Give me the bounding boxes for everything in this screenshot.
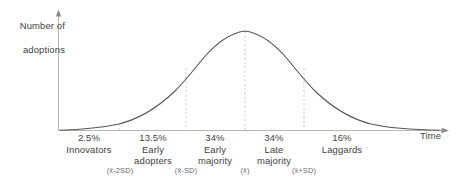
sd-mark-mean: (x̄): [228, 166, 262, 175]
diffusion-of-innovation-chart: Number of adoptions Time 2.5% Innovators…: [0, 0, 460, 190]
segment-label-laggards: 16% Laggards: [310, 132, 374, 155]
sd-mark-plus-1sd: (x̄+SD): [281, 166, 327, 175]
y-axis-title-line2: adoptions: [23, 44, 65, 55]
segment-label-early-majority: 34% Early majority: [188, 132, 242, 167]
segment-label-early-adopters: 13.5% Early adopters: [126, 132, 180, 167]
segment-percent: 2.5%: [59, 132, 119, 144]
segment-name-cont: adopters: [126, 155, 180, 167]
segment-percent: 16%: [310, 132, 374, 144]
segment-name: Early: [188, 144, 242, 156]
segment-percent: 34%: [188, 132, 242, 144]
segment-name: Early: [126, 144, 180, 156]
x-axis-arrow-icon: [442, 128, 450, 134]
sd-mark-minus-2sd: (x̄-2SD): [95, 166, 145, 175]
segment-name-cont: majority: [247, 155, 301, 167]
segment-name: Innovators: [59, 144, 119, 156]
segment-percent: 34%: [247, 132, 301, 144]
bell-curve-path: [60, 31, 440, 130]
segment-label-innovators: 2.5% Innovators: [59, 132, 119, 155]
segment-name: Laggards: [310, 144, 374, 156]
y-axis-title: Number of adoptions: [3, 8, 65, 68]
sd-mark-minus-1sd: (x̄-SD): [163, 166, 209, 175]
segment-name: Late: [247, 144, 301, 156]
segment-percent: 13.5%: [126, 132, 180, 144]
x-axis-title: Time: [420, 130, 441, 142]
segment-label-late-majority: 34% Late majority: [247, 132, 301, 167]
y-axis-title-line1: Number of: [20, 20, 65, 31]
segment-name-cont: majority: [188, 155, 242, 167]
